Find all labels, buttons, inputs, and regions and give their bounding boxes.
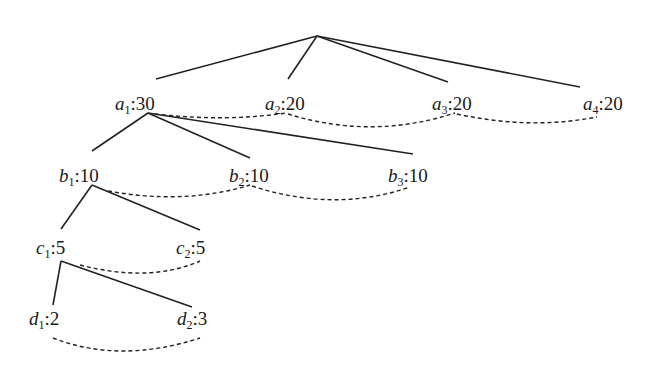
sibling-link-c1-c2: [80, 261, 200, 273]
node-b1: b1:10: [59, 166, 99, 188]
node-weight: :10: [404, 165, 428, 186]
edge-b1-c2: [92, 185, 200, 230]
node-letter: b: [229, 165, 239, 186]
node-weight: :10: [75, 165, 99, 186]
node-a4: a4:20: [583, 94, 623, 116]
node-weight: :20: [281, 93, 305, 114]
node-weight: :3: [193, 308, 208, 329]
edge-a1-b2: [148, 113, 250, 158]
node-letter: a: [265, 93, 275, 114]
node-letter: b: [388, 165, 398, 186]
sibling-link-a2-a3: [288, 113, 455, 127]
node-a2: a2:20: [265, 94, 305, 116]
edge-root-a3: [317, 36, 448, 82]
node-letter: d: [177, 308, 187, 329]
node-letter: a: [432, 93, 442, 114]
sibling-link-d1-d2: [53, 338, 200, 351]
node-letter: b: [59, 165, 69, 186]
node-weight: :5: [190, 237, 205, 258]
node-letter: d: [29, 308, 39, 329]
node-c1: c1:5: [36, 238, 65, 260]
node-letter: a: [583, 93, 593, 114]
edge-c1-d1: [53, 261, 61, 305]
node-weight: :10: [245, 165, 269, 186]
edge-b1-c1: [61, 185, 92, 229]
edge-a1-b1: [92, 113, 148, 151]
node-weight: :30: [131, 93, 155, 114]
node-b3: b3:10: [388, 166, 428, 188]
tree-diagram: a1:30 a2:20 a3:20 a4:20 b1:10 b2:10 b3:1…: [0, 0, 663, 382]
node-d2: d2:3: [177, 309, 207, 331]
node-b2: b2:10: [229, 166, 269, 188]
sibling-link-b2-b3: [252, 186, 410, 200]
node-c2: c2:5: [176, 238, 205, 260]
node-weight: :5: [50, 237, 65, 258]
node-weight: :20: [448, 93, 472, 114]
node-a1: a1:30: [115, 94, 155, 116]
node-d1: d1:2: [29, 309, 59, 331]
node-weight: :20: [599, 93, 623, 114]
tree-edges: [0, 0, 663, 382]
edge-a1-b3: [148, 113, 413, 154]
node-weight: :2: [45, 308, 60, 329]
node-letter: a: [115, 93, 125, 114]
node-a3: a3:20: [432, 94, 472, 116]
edge-root-a4: [317, 36, 580, 87]
edge-c1-d2: [61, 261, 192, 307]
sibling-link-a3-a4: [457, 114, 597, 123]
